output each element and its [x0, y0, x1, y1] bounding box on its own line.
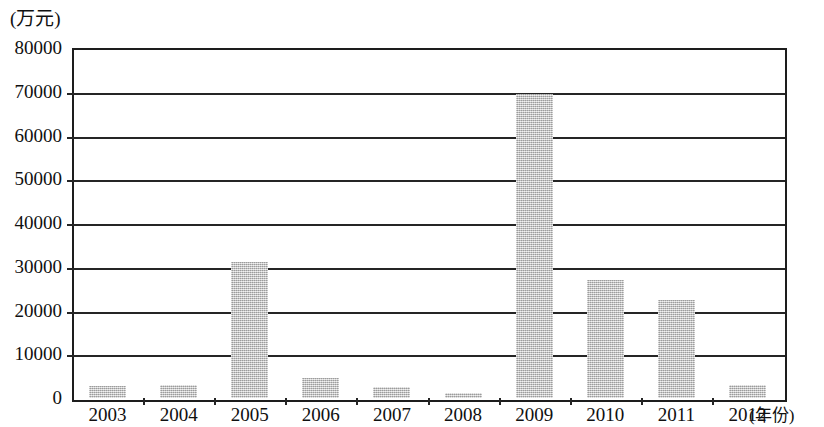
y-axis-tick-label: 50000	[15, 169, 63, 188]
y-axis-tick-label: 10000	[15, 344, 63, 363]
x-axis-tick-label: 2006	[281, 404, 361, 426]
x-axis-tick-label: 2011	[636, 404, 716, 426]
y-axis-tick-label: 40000	[15, 213, 63, 232]
bar	[89, 386, 126, 398]
bar	[160, 385, 197, 398]
y-axis-tick-label: 80000	[15, 38, 63, 57]
x-axis-tick-label: 2009	[494, 404, 574, 426]
x-axis-tick-label: 2010	[565, 404, 645, 426]
bar-chart: (万元) 01000020000300004000050000600007000…	[0, 0, 824, 427]
bar	[658, 300, 695, 398]
bar	[729, 385, 766, 398]
x-axis-tick-label-group: (年份) 20032004200520062007200820092010201…	[0, 404, 824, 427]
y-axis-tick-label: 60000	[15, 126, 63, 145]
y-axis-tick-label: 30000	[15, 257, 63, 276]
bar	[516, 94, 553, 398]
y-axis-tick-label: 70000	[15, 82, 63, 101]
bar-series-group	[72, 48, 783, 398]
x-axis-tick-label: 2004	[139, 404, 219, 426]
x-axis-tick-label: 2005	[210, 404, 290, 426]
x-axis-tick-label: 2003	[68, 404, 148, 426]
bar	[373, 387, 410, 398]
y-axis-tick-label-group: 0100002000030000400005000060000700008000…	[0, 0, 68, 427]
bar	[587, 280, 624, 398]
x-axis-tick-label: 2008	[423, 404, 503, 426]
x-axis-tick-label: 2012	[707, 404, 787, 426]
y-axis-tick-label: 20000	[15, 301, 63, 320]
bar	[302, 378, 339, 398]
x-axis-tick-label: 2007	[352, 404, 432, 426]
bar	[231, 262, 268, 398]
